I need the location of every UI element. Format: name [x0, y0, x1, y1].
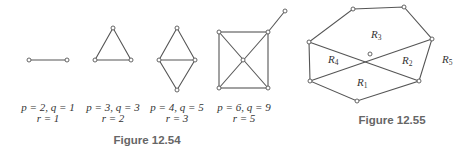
- vertex: [368, 52, 372, 56]
- graph-triangle: [93, 26, 133, 62]
- vertex: [308, 79, 312, 83]
- region-label-r1: R1: [356, 76, 368, 90]
- vertex: [307, 40, 311, 44]
- vertex: [241, 58, 245, 62]
- vertex: [193, 58, 197, 62]
- region-label-r2: R2: [401, 54, 413, 68]
- graph-diamond: [157, 26, 197, 92]
- figure-12-54-caption: Figure 12.54: [113, 134, 181, 146]
- planar-graph: [307, 5, 434, 103]
- vertex: [129, 58, 133, 62]
- graph-1-r-label: r = 1: [37, 112, 60, 124]
- graph-segment: [27, 58, 69, 62]
- vertex: [417, 79, 421, 83]
- figure-12-55-caption: Figure 12.55: [358, 114, 426, 126]
- vertex: [157, 58, 161, 62]
- graph-4-r-label: r = 5: [233, 112, 256, 124]
- graph-3-r-label: r = 3: [166, 112, 189, 124]
- vertex: [93, 58, 97, 62]
- vertex: [351, 7, 355, 11]
- region-label-r4: R4: [327, 53, 339, 67]
- vertex: [266, 30, 270, 34]
- region-label-r3: R3: [370, 28, 382, 42]
- vertex: [217, 30, 221, 34]
- vertex: [283, 9, 287, 13]
- vertex: [355, 99, 359, 103]
- vertex: [175, 88, 179, 92]
- figure-canvas: p = 2, q = 1 r = 1 p = 3, q = 3 r = 2 p …: [0, 0, 473, 147]
- vertex: [65, 58, 69, 62]
- vertex: [111, 26, 115, 30]
- vertex: [266, 86, 270, 90]
- vertex: [430, 37, 434, 41]
- vertex: [402, 5, 406, 9]
- region-label-r5: R5: [441, 53, 453, 67]
- vertex: [27, 58, 31, 62]
- graph-2-r-label: r = 2: [102, 112, 125, 124]
- graph-square-with-diagonals: [217, 9, 287, 90]
- vertex: [175, 26, 179, 30]
- vertex: [217, 86, 221, 90]
